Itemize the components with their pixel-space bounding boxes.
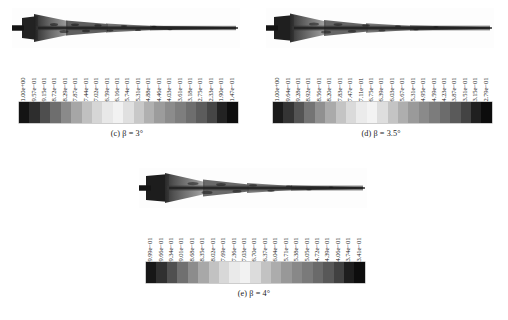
flow-contour-svg-e (139, 168, 367, 208)
colorbar-tick-label: 5.74e−01 (125, 78, 132, 102)
colorbar-band (346, 102, 356, 123)
colorbar-band (344, 262, 354, 283)
colorbar-tick-label: 2.33e−01 (208, 78, 215, 102)
colorbar-band (113, 102, 123, 123)
colorbar-band (207, 102, 217, 123)
colorbar-c (19, 102, 238, 123)
colorbar-tick-label: 9.99e−01 (148, 238, 155, 262)
colorbar-tick-label: 3.18e−01 (187, 78, 194, 102)
colorbar-band (461, 102, 471, 123)
colorbar-band (261, 262, 271, 283)
flow-field-e (127, 166, 381, 210)
colorbar-tick-label: 4.59e−01 (431, 78, 438, 102)
colorbar-band (167, 262, 177, 283)
colorbar-band (186, 102, 196, 123)
colorbar-tick-label: 9.57e−01 (31, 78, 38, 102)
colorbar-tick-label: 3.74e−01 (346, 238, 353, 262)
colorbar-band (323, 262, 333, 283)
colorbar-tick-label: 7.83e−01 (337, 78, 344, 102)
panel-e: 9.99e−019.66e−019.34e−019.01e−018.68e−01… (127, 160, 381, 298)
colorbar-band (325, 102, 335, 123)
colorbar-band (177, 262, 187, 283)
colorbar-band (281, 262, 291, 283)
colorbar-tick-label: 5.05e−01 (304, 238, 311, 262)
colorbar-band (40, 102, 50, 123)
colorbar-band (198, 262, 208, 283)
colorbar-tick-label: 7.02e−01 (94, 78, 101, 102)
colorbar-tick-label: 9.01e−01 (179, 238, 186, 262)
colorbar-tick-label: 5.67e−01 (400, 78, 407, 102)
colorbar-tick-label: 9.64e−01 (285, 78, 292, 102)
colorbar-tick-label: 6.16e−01 (114, 78, 121, 102)
colorbar-tick-label: 8.29e−01 (62, 78, 69, 102)
colorbar-band (283, 102, 293, 123)
colorbar-band (408, 102, 418, 123)
colorbar-tick-label: 6.75e−01 (368, 78, 375, 102)
colorbar-band (304, 102, 314, 123)
colorbar-tick-label: 8.02e−01 (210, 238, 217, 262)
colorbar-band (356, 102, 366, 123)
colorbar-tick-label: 6.70e−01 (252, 238, 259, 262)
colorbar-tick-label: 4.03e−01 (167, 78, 174, 102)
colorbar-band (71, 102, 81, 123)
colorbar-tick-label: 7.44e−01 (83, 78, 90, 102)
flow-contour-svg-c (12, 8, 240, 48)
colorbar-labels-e: 9.99e−019.66e−019.34e−019.01e−018.68e−01… (146, 210, 365, 262)
colorbar-tick-label: 7.69e−01 (221, 238, 228, 262)
colorbar-tick-label: 3.41e−01 (356, 238, 363, 262)
colorbar-band (292, 262, 302, 283)
panel-caption-d: (d) β = 3.5° (254, 129, 508, 138)
colorbar-band (336, 102, 346, 123)
panel-c: 1.00e+009.57e−019.15e−018.72e−018.29e−01… (0, 0, 254, 138)
figure-sheet: 1.00e+009.57e−019.15e−018.72e−018.29e−01… (0, 0, 508, 320)
colorbar-tick-label: 9.15e−01 (41, 78, 48, 102)
colorbar-band (217, 102, 227, 123)
panel-d: 1.00e+009.64e−019.28e−018.92e−018.56e−01… (254, 0, 508, 138)
colorbar-band (29, 102, 39, 123)
colorbar-band (188, 262, 198, 283)
colorbar-tick-label: 8.92e−01 (306, 78, 313, 102)
colorbar-tick-label: 5.38e−01 (294, 238, 301, 262)
colorbar-band (334, 262, 344, 283)
colorbar-band (156, 262, 166, 283)
colorbar-band (123, 102, 133, 123)
colorbar-tick-label: 4.39e−01 (325, 238, 332, 262)
colorbar-labels-d: 1.00e+009.64e−019.28e−018.92e−018.56e−01… (273, 50, 492, 102)
flow-field-image-e (139, 168, 367, 208)
colorbar-band (313, 262, 323, 283)
colorbar-band (398, 102, 408, 123)
colorbar-band (388, 102, 398, 123)
colorbar-tick-label: 4.88e−01 (146, 78, 153, 102)
colorbar-band (471, 102, 481, 123)
colorbar-tick-label: 4.72e−01 (314, 238, 321, 262)
flow-field-c (0, 6, 254, 50)
colorbar-band (271, 262, 281, 283)
colorbar-band (102, 102, 112, 123)
colorbar-tick-label: 4.23e−01 (441, 78, 448, 102)
colorbar-tick-label: 7.36e−01 (231, 238, 238, 262)
flow-field-image-c (12, 8, 240, 48)
colorbar-tick-label: 9.66e−01 (158, 238, 165, 262)
colorbar-tick-label: 3.15e−01 (473, 78, 480, 102)
colorbar-band (92, 102, 102, 123)
colorbar-band (302, 262, 312, 283)
colorbar-band (229, 262, 239, 283)
colorbar-e (146, 262, 365, 283)
colorbar-tick-label: 3.51e−01 (462, 78, 469, 102)
colorbar-band (250, 262, 260, 283)
colorbar-tick-label: 3.61e−01 (177, 78, 184, 102)
colorbar-band (165, 102, 175, 123)
colorbar-tick-label: 4.46e−01 (156, 78, 163, 102)
colorbar-tick-label: 1.00e+00 (275, 78, 282, 102)
colorbar-band (219, 262, 229, 283)
colorbar-tick-label: 7.47e−01 (348, 78, 355, 102)
colorbar-tick-label: 7.11e−01 (358, 78, 365, 102)
flow-field-image-d (266, 8, 494, 48)
colorbar-band (450, 102, 460, 123)
colorbar-band (196, 102, 206, 123)
colorbar-band (377, 102, 387, 123)
flow-contour-svg-d (266, 8, 494, 48)
colorbar-band (227, 102, 237, 123)
colorbar-tick-label: 5.71e−01 (283, 238, 290, 262)
colorbar-tick-label: 4.95e−01 (421, 78, 428, 102)
